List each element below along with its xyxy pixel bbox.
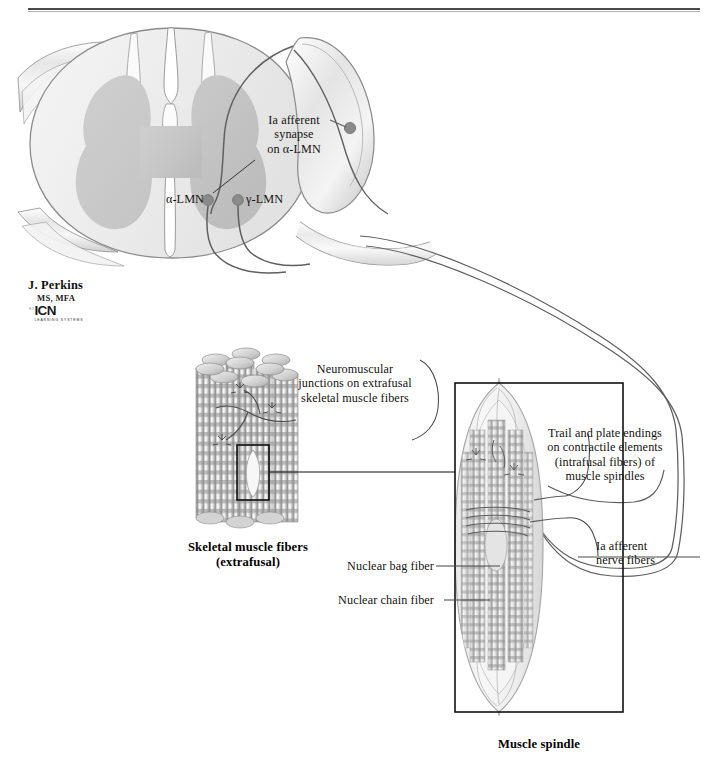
label-trail-and-plate-endings: Trail and plate endings on contractile e…	[532, 426, 678, 484]
icon-logo-mark: ICN	[34, 304, 83, 318]
nuclear-chain-fiber-right	[508, 430, 523, 662]
alpha-lmn-soma	[203, 195, 214, 206]
caption-muscle-spindle: Muscle spindle	[469, 737, 609, 752]
label-nuclear-chain-fiber: Nuclear chain fiber	[322, 593, 434, 607]
label-alpha-lmn: α-LMN	[154, 192, 204, 206]
label-gamma-lmn: γ-LMN	[246, 192, 300, 206]
label-ia-afferent-synapse: Ia afferent synapse on α-LMN	[246, 113, 342, 156]
artist-credit-name: J. Perkins	[28, 278, 83, 293]
artist-credit-degrees: MS, MFA	[37, 293, 75, 303]
copyright-symbol: ©	[29, 305, 34, 312]
header-rule	[28, 9, 700, 12]
spinal-nerve-trunk	[296, 222, 436, 265]
publisher-logo: © ICN LEARNING SYSTEMS	[29, 304, 83, 322]
sensory-neuron-soma	[344, 122, 355, 133]
nuclear-chain-fiber-left	[470, 430, 485, 662]
caption-skeletal-muscle-fibers: Skeletal muscle fibers (extrafusal)	[168, 540, 328, 570]
label-neuromuscular-junctions: Neuromuscular junctions on extrafusal sk…	[290, 362, 420, 405]
label-nuclear-bag-fiber: Nuclear bag fiber	[330, 559, 434, 573]
extrafusal-muscle-fiber-bundle	[196, 348, 298, 528]
label-ia-afferent-nerve-fibers: Ia afferent nerve fibers	[596, 539, 702, 568]
icon-logo-subtitle: LEARNING SYSTEMS	[34, 318, 83, 322]
figure-canvas: Ia afferent synapse on α-LMN α-LMN γ-LMN…	[0, 0, 716, 775]
gamma-lmn-soma	[233, 195, 244, 206]
